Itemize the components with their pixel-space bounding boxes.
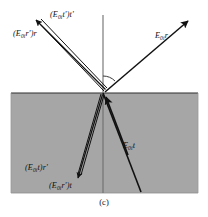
label-E0i-t-post: t [133, 141, 135, 150]
label-E0i-t-prime-t-prime: (E0it')t' [50, 11, 74, 19]
lower-medium-region [11, 93, 198, 193]
figure-caption: (c) [0, 197, 208, 207]
label-tr-sub: 0i [33, 167, 38, 173]
label-rt-pre: (E [49, 181, 57, 190]
label-E0i-r-post: r [165, 31, 168, 40]
label-E0i-r: E0ir [155, 32, 168, 40]
label-E0i-r-prime-r: (E0ir')r [13, 30, 37, 38]
optics-ray-diagram-figure: E0ir E0it (E0it')t' (E0ir')r (E0it)r' (E… [0, 0, 208, 217]
label-rt-post: r')t [62, 181, 72, 190]
label-E0i-r-sub: 0i [160, 35, 165, 41]
label-E0i-r-prime-t: (E0ir')t [49, 182, 72, 190]
angle-of-incidence-arc [103, 76, 115, 81]
label-E0i-t-sub: 0i [128, 145, 133, 151]
label-rr-post: r')r [26, 29, 37, 38]
label-tr-pre: (E [25, 163, 33, 172]
label-rr-sub: 0i [21, 33, 26, 39]
label-E0i-t-r-prime: (E0it)r' [25, 164, 48, 172]
label-rr-pre: (E [13, 29, 21, 38]
reflected-ray-upper-right [105, 21, 188, 92]
label-rt-sub: 0i [57, 185, 62, 191]
label-tt-pre: (E [50, 10, 58, 19]
label-tr-post: t)r' [38, 163, 48, 172]
label-tt-post: t')t' [63, 10, 74, 19]
label-E0i-t: E0it [123, 142, 135, 150]
upper-left-double-ray [36, 19, 107, 91]
label-tt-sub: 0i [58, 14, 63, 20]
